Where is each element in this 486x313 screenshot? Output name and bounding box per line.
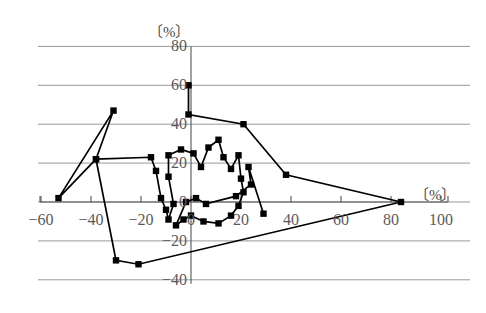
data-point-marker[interactable] [190, 150, 196, 156]
data-point-marker[interactable] [148, 154, 154, 160]
data-point-marker[interactable] [173, 222, 179, 228]
data-polyline [59, 85, 402, 264]
x-tick-label--40: −40 [78, 211, 103, 229]
x-tick-label-80: 80 [383, 211, 399, 229]
data-point-marker[interactable] [110, 107, 116, 113]
x-tick-label-40: 40 [283, 211, 299, 229]
data-point-marker[interactable] [203, 201, 209, 207]
data-point-marker[interactable] [113, 257, 119, 263]
data-point-marker[interactable] [135, 261, 141, 267]
y-tick-label-40: 40 [171, 115, 187, 133]
axis-lines-group [40, 46, 448, 283]
data-polyline-group [59, 85, 402, 264]
data-point-marker[interactable] [198, 164, 204, 170]
data-point-marker[interactable] [180, 216, 186, 222]
chart-plot-area [0, 0, 486, 313]
y-tick-label-80: 80 [171, 37, 187, 55]
data-point-marker[interactable] [398, 199, 404, 205]
x-axis-unit-label: 〔%〕 [414, 183, 457, 204]
data-point-marker[interactable] [220, 154, 226, 160]
data-point-marker[interactable] [170, 201, 176, 207]
data-point-marker[interactable] [205, 144, 211, 150]
x-tick-label-100: 100 [429, 211, 453, 229]
data-point-marker[interactable] [228, 166, 234, 172]
data-point-marker[interactable] [55, 195, 61, 201]
data-point-marker[interactable] [165, 216, 171, 222]
y-tick-label--40: −40 [162, 271, 187, 289]
gridlines-group [38, 46, 470, 279]
data-point-marker[interactable] [193, 195, 199, 201]
data-point-marker[interactable] [238, 175, 244, 181]
x-tick-label--20: −20 [128, 211, 153, 229]
data-point-marker[interactable] [260, 210, 266, 216]
data-point-marker[interactable] [215, 137, 221, 143]
data-point-marker[interactable] [248, 181, 254, 187]
data-point-marker[interactable] [165, 174, 171, 180]
data-point-marker[interactable] [240, 121, 246, 127]
x-tick-label-0: 0 [187, 211, 195, 229]
data-markers-group [55, 82, 404, 267]
x-tick-label-20: 20 [233, 211, 249, 229]
x-tick-label-60: 60 [333, 211, 349, 229]
data-point-marker[interactable] [240, 189, 246, 195]
data-point-marker[interactable] [178, 146, 184, 152]
y-tick-label-0: 0 [179, 193, 187, 211]
data-point-marker[interactable] [93, 156, 99, 162]
data-point-marker[interactable] [153, 168, 159, 174]
x-tick-label--60: −60 [28, 211, 53, 229]
y-tick-label-20: 20 [171, 154, 187, 172]
y-tick-label-60: 60 [171, 76, 187, 94]
data-point-marker[interactable] [200, 218, 206, 224]
chart-container: 〔%〕 〔%〕 −60−40−20020406080100 −40−200204… [0, 0, 486, 313]
data-point-marker[interactable] [245, 164, 251, 170]
y-tick-label--20: −20 [162, 232, 187, 250]
data-point-marker[interactable] [163, 207, 169, 213]
data-point-marker[interactable] [158, 195, 164, 201]
data-point-marker[interactable] [235, 203, 241, 209]
data-point-marker[interactable] [283, 172, 289, 178]
data-point-marker[interactable] [235, 152, 241, 158]
data-point-marker[interactable] [233, 193, 239, 199]
data-point-marker[interactable] [215, 220, 221, 226]
